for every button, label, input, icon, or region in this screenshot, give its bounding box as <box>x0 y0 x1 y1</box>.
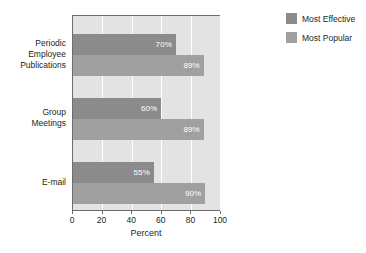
x-tick-label: 0 <box>70 215 75 225</box>
x-tick-label: 20 <box>97 215 106 225</box>
legend-label: Most Popular <box>302 33 352 43</box>
category-label: PeriodicEmployeePublications <box>0 38 66 71</box>
bar-group: 55%90% <box>73 162 220 204</box>
category-label-line: Publications <box>0 60 66 71</box>
category-label-line: E-mail <box>0 177 66 188</box>
x-tick-mark <box>102 211 103 214</box>
x-tick-mark <box>161 211 162 214</box>
bar: 90% <box>73 183 205 204</box>
x-axis-title: Percent <box>72 228 220 238</box>
legend-item[interactable]: Most Effective <box>286 13 366 24</box>
x-axis-ticks: 020406080100 <box>72 211 220 225</box>
bar: 89% <box>73 119 204 140</box>
x-tick-mark <box>72 211 73 214</box>
x-tick-mark <box>220 211 221 214</box>
bar-chart: 70%89%60%89%55%90% PeriodicEmployeePubli… <box>0 0 366 253</box>
bar-value-label: 55% <box>134 169 154 177</box>
bar-value-label: 89% <box>184 62 204 70</box>
legend-swatch <box>286 32 297 43</box>
bar-value-label: 89% <box>184 126 204 134</box>
category-label: E-mail <box>0 177 66 188</box>
category-label-line: Employee <box>0 49 66 60</box>
category-label-line: Meetings <box>0 118 66 129</box>
category-label-line: Group <box>0 107 66 118</box>
bar-group: 60%89% <box>73 98 220 140</box>
x-tick-label: 40 <box>126 215 135 225</box>
bar: 70% <box>73 34 176 55</box>
legend-item[interactable]: Most Popular <box>286 32 366 43</box>
category-label: GroupMeetings <box>0 107 66 129</box>
bar: 60% <box>73 98 161 119</box>
bar-group: 70%89% <box>73 34 220 76</box>
legend-label: Most Effective <box>302 14 355 24</box>
gridline <box>220 16 221 210</box>
bar-groups: 70%89%60%89%55%90% <box>73 16 220 210</box>
bar: 89% <box>73 55 204 76</box>
bar-value-label: 70% <box>156 41 176 49</box>
plot-area: 70%89%60%89%55%90% <box>72 15 220 210</box>
x-tick-label: 80 <box>186 215 195 225</box>
category-label-line: Periodic <box>0 38 66 49</box>
x-tick-mark <box>190 211 191 214</box>
legend-swatch <box>286 13 297 24</box>
legend: Most EffectiveMost Popular <box>286 13 366 51</box>
x-tick-mark <box>131 211 132 214</box>
category-axis-labels: PeriodicEmployeePublicationsGroupMeeting… <box>0 15 66 210</box>
bar-value-label: 90% <box>185 190 205 198</box>
bar: 55% <box>73 162 154 183</box>
x-tick-label: 100 <box>213 215 227 225</box>
x-tick-label: 60 <box>156 215 165 225</box>
bar-value-label: 60% <box>141 105 161 113</box>
